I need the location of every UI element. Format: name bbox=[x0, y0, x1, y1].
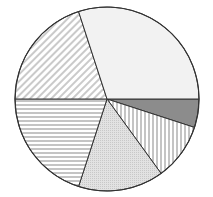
pie-slices bbox=[15, 7, 199, 191]
pie-chart bbox=[0, 0, 213, 197]
